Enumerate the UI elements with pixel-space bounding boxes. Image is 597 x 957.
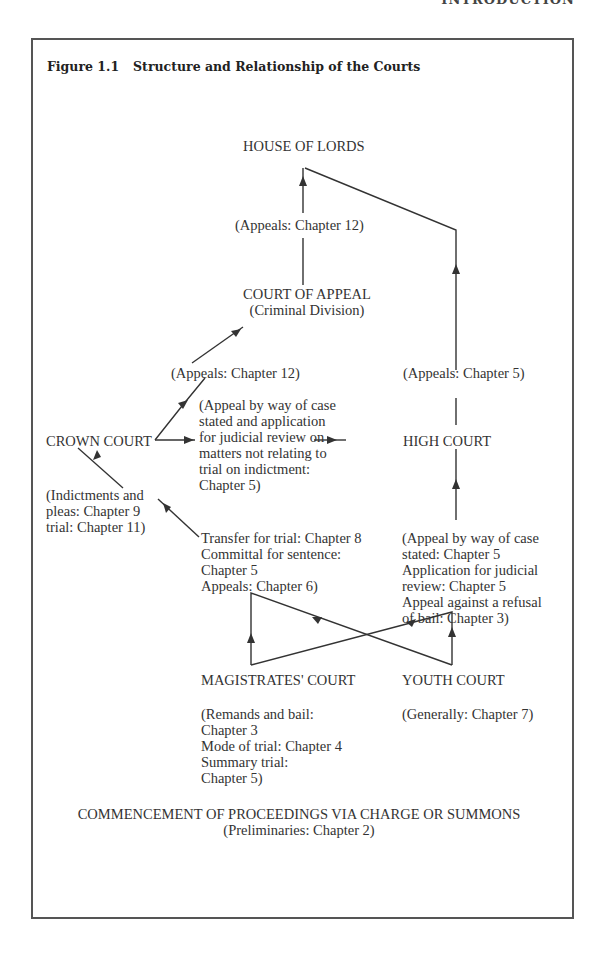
arrow-up-youth — [448, 627, 456, 637]
label-indictments-note: (Indictments and pleas: Chapter 9 trial:… — [46, 487, 145, 535]
arrow-coa-lower — [178, 400, 188, 409]
arrow-coa-upper — [231, 329, 241, 337]
label-case-stated-note: (Appeal by way of case stated and applic… — [199, 397, 336, 493]
line-indictments-crown — [78, 448, 123, 488]
label-preliminaries: (Preliminaries: Chapter 2) — [60, 822, 538, 838]
arrow-crown-indictments — [93, 450, 101, 460]
arrow-up-highcourt — [452, 479, 460, 489]
node-crown-court: CROWN COURT — [46, 433, 152, 449]
arrow-up-right-path — [452, 264, 460, 274]
label-appeals-ch12-mid: (Appeals: Chapter 12) — [171, 365, 300, 381]
label-magistrates-note: (Remands and bail: Chapter 3 Mode of tri… — [201, 706, 342, 786]
node-high-court: HIGH COURT — [403, 433, 491, 449]
label-youth-note: (Generally: Chapter 7) — [402, 706, 533, 722]
line-crown-coa-lower — [155, 378, 205, 440]
arrow-indictments — [163, 503, 171, 513]
arrow-down-cross-left — [312, 617, 322, 624]
arrow-up-magistrates — [247, 633, 255, 643]
label-criminal-division: (Criminal Division) — [236, 302, 378, 318]
label-appeals-ch12-top: (Appeals: Chapter 12) — [235, 217, 364, 233]
label-transfer-note: Transfer for trial: Chapter 8 Committal … — [201, 530, 362, 594]
label-commencement: COMMENCEMENT OF PROCEEDINGS VIA CHARGE O… — [60, 806, 538, 822]
label-youth-appeal-note: (Appeal by way of case stated: Chapter 5… — [402, 530, 542, 626]
arrow-right-case-stated — [184, 436, 194, 444]
arrow-up-hol — [299, 176, 307, 186]
label-appeals-ch5: (Appeals: Chapter 5) — [403, 365, 525, 381]
node-youth-court: YOUTH COURT — [402, 672, 505, 688]
node-magistrates-court: MAGISTRATES' COURT — [201, 672, 355, 688]
line-hol-highcourt — [305, 168, 456, 370]
node-court-of-appeal: COURT OF APPEAL — [236, 286, 378, 302]
node-house-of-lords: HOUSE OF LORDS — [243, 138, 365, 154]
